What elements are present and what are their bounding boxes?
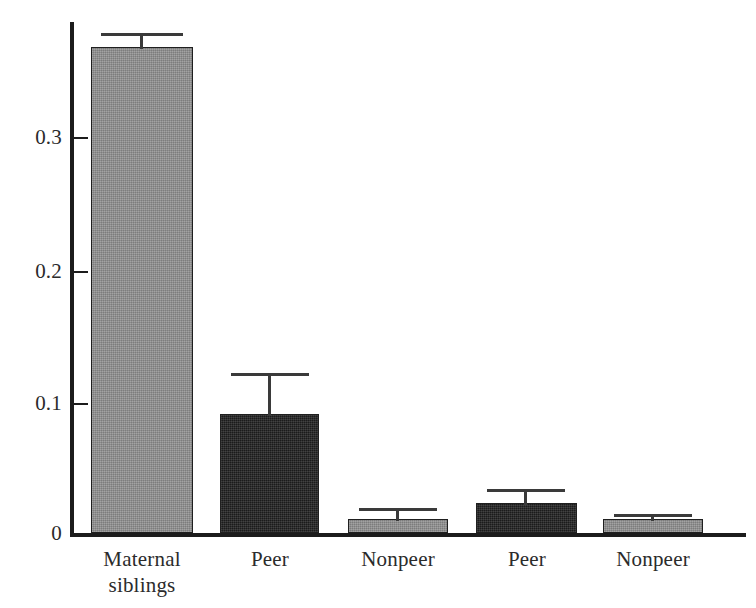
y-tick-label-0.2: 0.2 xyxy=(4,261,62,282)
x-label-maternal-siblings-line2: siblings xyxy=(72,572,212,598)
x-label-maternal-siblings: Maternal siblings xyxy=(72,546,212,598)
error-bar-stem-maternal-siblings xyxy=(140,34,143,49)
error-bar-cap-peer-2 xyxy=(487,489,565,492)
y-tick-0.2 xyxy=(74,271,88,273)
x-label-peer-2: Peer xyxy=(457,546,597,572)
x-label-maternal-siblings-line1: Maternal xyxy=(72,546,212,572)
error-bar-stem-peer-2 xyxy=(524,490,527,505)
y-tick-label-0.3: 0.3 xyxy=(4,127,62,148)
error-bar-cap-nonpeer-2 xyxy=(614,514,692,517)
error-bar-stem-peer-1 xyxy=(268,374,271,416)
error-bar-cap-nonpeer-1 xyxy=(359,508,437,511)
bar-chart: 0.3 0.2 0.1 0 Maternal siblings Peer Non… xyxy=(0,0,756,608)
x-label-nonpeer-2: Nonpeer xyxy=(583,546,723,572)
x-label-peer-1: Peer xyxy=(200,546,340,572)
y-tick-label-0.1: 0.1 xyxy=(4,393,62,414)
bar-peer-1[interactable] xyxy=(220,414,319,533)
bar-peer-2[interactable] xyxy=(476,503,577,533)
error-bar-cap-peer-1 xyxy=(231,373,309,376)
x-axis-line xyxy=(70,533,746,537)
x-label-peer-2-line1: Peer xyxy=(457,546,597,572)
y-tick-0.1 xyxy=(74,403,88,405)
y-axis-line xyxy=(70,22,74,536)
x-label-nonpeer-1: Nonpeer xyxy=(328,546,468,572)
y-tick-label-0: 0 xyxy=(4,523,62,544)
bar-maternal-siblings[interactable] xyxy=(91,47,193,533)
x-label-nonpeer-2-line1: Nonpeer xyxy=(583,546,723,572)
bar-nonpeer-1[interactable] xyxy=(348,519,448,533)
x-label-peer-1-line1: Peer xyxy=(200,546,340,572)
x-label-nonpeer-1-line1: Nonpeer xyxy=(328,546,468,572)
bar-nonpeer-2[interactable] xyxy=(603,519,703,533)
y-tick-0.3 xyxy=(74,137,88,139)
error-bar-cap-maternal-siblings xyxy=(101,33,183,36)
